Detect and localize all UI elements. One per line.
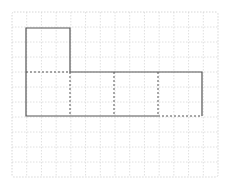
grid-paper <box>12 12 218 177</box>
cube-net-diagram <box>0 0 229 185</box>
